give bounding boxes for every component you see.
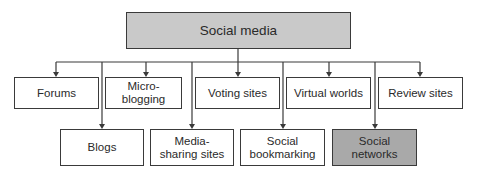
node-social-networks: Social networks bbox=[332, 129, 417, 166]
node-voting-sites: Voting sites bbox=[195, 77, 280, 109]
node-label: Social media bbox=[200, 24, 277, 37]
node-review-sites: Review sites bbox=[378, 77, 463, 109]
node-social-media: Social media bbox=[126, 12, 351, 49]
node-label: Forums bbox=[37, 87, 76, 100]
node-label: Voting sites bbox=[208, 87, 267, 100]
node-label: Micro-blogging bbox=[106, 80, 181, 106]
node-micro-blogging: Micro-blogging bbox=[105, 77, 182, 109]
node-label: Media-sharing sites bbox=[157, 135, 227, 161]
node-forums: Forums bbox=[14, 77, 99, 109]
node-label: Social networks bbox=[345, 135, 404, 161]
node-label: Review sites bbox=[388, 87, 453, 100]
node-virtual-worlds: Virtual worlds bbox=[286, 77, 371, 109]
node-media-sharing-sites: Media-sharing sites bbox=[150, 129, 234, 166]
node-blogs: Blogs bbox=[60, 129, 144, 166]
node-label: Virtual worlds bbox=[294, 87, 363, 100]
node-label: Blogs bbox=[88, 141, 117, 154]
node-social-bookmarking: Social bookmarking bbox=[240, 129, 325, 166]
node-label: Social bookmarking bbox=[245, 135, 320, 161]
